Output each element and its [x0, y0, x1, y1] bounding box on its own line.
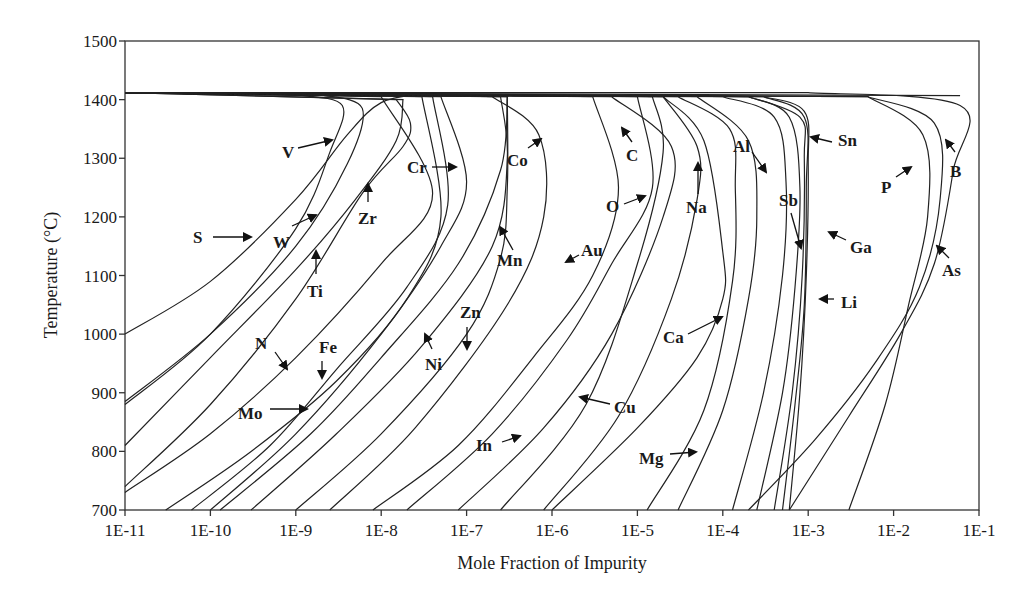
label-C: C — [626, 146, 638, 165]
curve-N — [125, 93, 433, 493]
label-S: S — [193, 228, 202, 247]
curve-As — [125, 93, 943, 510]
x-tick-label: 1E-3 — [792, 521, 825, 540]
label-W: W — [273, 233, 290, 252]
y-tick-label: 1000 — [83, 325, 117, 344]
label-Na: Na — [686, 198, 707, 217]
arrow-Al — [752, 152, 766, 172]
curve-Mg — [125, 93, 757, 510]
y-tick-label: 1200 — [83, 208, 117, 227]
x-tick-label: 1E-7 — [450, 521, 484, 540]
x-tick-label: 1E-11 — [105, 521, 146, 540]
arrow-Sn — [811, 137, 832, 142]
label-Zn: Zn — [460, 303, 481, 322]
arrow-O — [624, 196, 645, 204]
x-tick-label: 1E-6 — [535, 521, 568, 540]
plot-frame — [125, 41, 979, 510]
arrow-Mn — [500, 227, 513, 250]
label-Zr: Zr — [358, 209, 377, 228]
label-Sn: Sn — [838, 131, 857, 150]
label-B: B — [950, 162, 961, 181]
label-Mo: Mo — [238, 404, 263, 423]
curve-Ga — [125, 93, 805, 510]
y-tick-label: 800 — [92, 442, 118, 461]
label-Fe: Fe — [319, 338, 337, 357]
arrow-In — [502, 436, 520, 442]
curve-O — [125, 93, 701, 510]
arrow-Au — [566, 255, 579, 262]
arrow-Co — [528, 139, 541, 148]
label-Sb: Sb — [779, 191, 798, 210]
label-Mg: Mg — [639, 449, 664, 468]
solubility-chart: 1E-111E-101E-91E-81E-71E-61E-51E-41E-31E… — [0, 0, 1036, 595]
curve-V — [125, 93, 344, 405]
curve-labels: S V W Ti Zr Cr Co C O Na Al Sn Sb Ga Li … — [193, 131, 961, 468]
label-Co: Co — [507, 151, 528, 170]
x-axis-ticks: 1E-111E-101E-91E-81E-71E-61E-51E-41E-31E… — [105, 510, 996, 540]
x-tick-label: 1E-9 — [279, 521, 312, 540]
y-tick-label: 900 — [92, 384, 118, 403]
label-In: In — [476, 436, 493, 455]
label-N: N — [255, 334, 268, 353]
label-Ca: Ca — [663, 328, 684, 347]
label-Cr: Cr — [407, 158, 427, 177]
label-V: V — [282, 143, 295, 162]
arrow-As — [937, 246, 949, 258]
y-tick-label: 1100 — [84, 267, 117, 286]
arrow-Ga — [829, 232, 846, 240]
arrow-P — [896, 167, 911, 177]
x-tick-label: 1E-8 — [365, 521, 398, 540]
curve-Ti — [125, 93, 403, 446]
y-axis-title: Temperature (°C) — [41, 212, 62, 338]
x-tick-label: 1E-2 — [877, 521, 910, 540]
curve-Zr — [125, 93, 411, 487]
curve-Cu — [125, 93, 675, 510]
y-tick-label: 1400 — [83, 91, 117, 110]
label-Cu: Cu — [614, 398, 636, 417]
label-Ga: Ga — [850, 238, 872, 257]
arrow-C — [622, 128, 632, 142]
arrow-Ca — [688, 317, 722, 334]
y-axis-ticks: 700800900100011001200130014001500 — [83, 32, 125, 520]
label-Li: Li — [841, 293, 857, 312]
x-tick-label: 1E-5 — [621, 521, 654, 540]
arrow-Cu — [580, 397, 610, 404]
label-Ni: Ni — [425, 355, 442, 374]
curve-Sb — [125, 93, 800, 510]
y-tick-label: 1500 — [83, 32, 117, 51]
curve-C — [125, 93, 663, 510]
arrow-B — [946, 140, 955, 152]
y-tick-label: 700 — [92, 501, 118, 520]
label-Au: Au — [581, 241, 603, 260]
x-tick-label: 1E-4 — [706, 521, 740, 540]
curve-S — [125, 93, 422, 335]
arrow-N — [275, 352, 287, 369]
label-P: P — [881, 178, 891, 197]
label-Mn: Mn — [497, 251, 523, 270]
x-tick-label: 1E-1 — [962, 521, 995, 540]
x-tick-label: 1E-10 — [190, 521, 232, 540]
label-O: O — [606, 197, 619, 216]
label-Ti: Ti — [307, 282, 323, 301]
curve-Li — [125, 93, 808, 510]
curve-Au — [125, 93, 653, 510]
x-axis-title: Mole Fraction of Impurity — [457, 553, 646, 573]
label-As: As — [942, 261, 961, 280]
curve-Sn — [125, 93, 809, 510]
y-tick-label: 1300 — [83, 149, 117, 168]
label-Al: Al — [733, 137, 750, 156]
arrow-V — [298, 140, 332, 148]
